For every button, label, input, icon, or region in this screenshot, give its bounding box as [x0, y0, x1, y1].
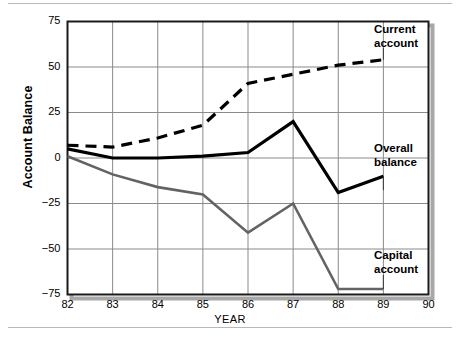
annotation-line: account [374, 37, 418, 51]
x-tick-label: 90 [412, 298, 446, 310]
x-tick-label: 89 [366, 298, 400, 310]
y-tick-label: −50 [27, 242, 61, 254]
x-tick-label: 85 [186, 298, 220, 310]
x-tick-label: 86 [231, 298, 265, 310]
y-tick-label: −25 [27, 196, 61, 208]
x-tick-label: 88 [321, 298, 355, 310]
annotation-line: Capital [374, 249, 418, 263]
chart-figure: Account Balance YEAR 7550250−25−50−75 82… [0, 0, 460, 341]
annotation-line: Overall [374, 142, 417, 156]
x-axis-title: YEAR [0, 313, 460, 325]
overall-balance-label: Overallbalance [374, 142, 417, 169]
x-tick-label: 87 [276, 298, 310, 310]
annotation-line: Current [374, 23, 418, 37]
x-tick-label: 83 [96, 298, 130, 310]
annotation-line: account [374, 263, 418, 277]
chart-plot-svg [0, 0, 460, 341]
y-tick-label: 25 [27, 105, 61, 117]
x-tick-label: 82 [51, 298, 85, 310]
y-tick-label: 75 [27, 14, 61, 26]
y-tick-label: 0 [27, 151, 61, 163]
x-tick-label: 84 [141, 298, 175, 310]
y-axis-title: Account Balance [21, 62, 35, 212]
capital-account-label: Capitalaccount [374, 249, 418, 276]
current-account-label: Currentaccount [374, 23, 418, 50]
annotation-line: balance [374, 156, 417, 170]
y-tick-label: 50 [27, 60, 61, 72]
